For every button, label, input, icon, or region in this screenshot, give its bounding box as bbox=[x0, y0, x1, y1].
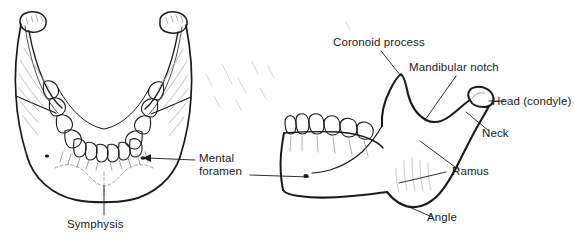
lateral-condyle-detail bbox=[472, 93, 485, 99]
anterior-left-ramus-outline bbox=[15, 24, 27, 156]
mandible-illustration bbox=[0, 0, 574, 241]
leader-mental-foramen-right bbox=[250, 175, 309, 177]
lateral-mandible-view bbox=[281, 74, 494, 207]
anterior-mandible-base bbox=[27, 156, 180, 202]
arrowhead-mental-foramen-left bbox=[143, 154, 151, 162]
leader-ramus-second bbox=[399, 172, 446, 183]
lateral-chin-outline bbox=[281, 133, 284, 190]
leader-mental-foramen-left bbox=[147, 158, 195, 160]
label-mental-foramen: Mental foramen bbox=[199, 152, 242, 178]
anterior-right-condyle bbox=[160, 12, 187, 33]
label-symphysis: Symphysis bbox=[67, 218, 124, 231]
mandible-anatomy-figure: Coronoid process Mandibular notch Head (… bbox=[0, 0, 574, 241]
label-coronoid-process: Coronoid process bbox=[333, 36, 425, 49]
label-mandibular-notch: Mandibular notch bbox=[409, 61, 499, 74]
anterior-right-ramus-outline bbox=[180, 25, 192, 157]
anterior-mandible-view bbox=[15, 12, 350, 202]
lateral-condyle-head bbox=[468, 87, 493, 107]
label-neck: Neck bbox=[482, 127, 509, 140]
label-head-condyle: Head (condyle) bbox=[492, 95, 571, 108]
background-sketch-strokes bbox=[206, 22, 350, 110]
label-angle: Angle bbox=[427, 211, 457, 224]
leader-mandibular-notch bbox=[425, 76, 456, 120]
lateral-ramus-shading bbox=[396, 158, 431, 192]
lateral-alveolar-striations bbox=[290, 136, 368, 156]
lateral-inferior-border bbox=[283, 190, 387, 198]
anterior-mental-foramen-left bbox=[45, 154, 49, 157]
label-ramus: Ramus bbox=[452, 165, 489, 178]
leader-coronoid-process bbox=[381, 51, 401, 76]
leader-arrowheads bbox=[143, 154, 151, 162]
